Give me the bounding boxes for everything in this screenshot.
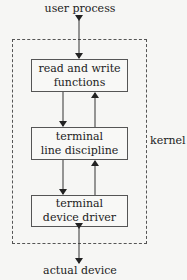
terminal-io-diagram: user process kernel read and write funct… [0,0,187,280]
actual-device-label: actual device [40,265,120,277]
arrows-layer [0,0,187,280]
